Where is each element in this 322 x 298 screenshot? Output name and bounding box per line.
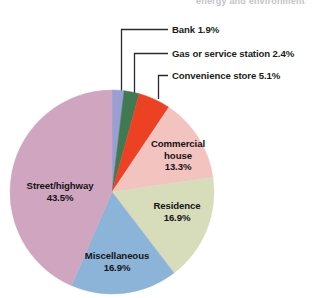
pie-chart-figure: energy and environment Bank 1.9% Gas or … <box>0 0 322 298</box>
slice-label-commercial-house-name-line2: house <box>139 150 217 162</box>
slice-label-miscellaneous-value: 16.9% <box>71 262 163 274</box>
slice-label-residence-value: 16.9% <box>141 212 213 224</box>
slice-label-residence-name: Residence <box>141 200 213 212</box>
slice-label-street-highway-value: 43.5% <box>8 192 112 204</box>
slice-label-street-highway-name: Street/highway <box>8 180 112 192</box>
slice-label-miscellaneous: Miscellaneous 16.9% <box>71 250 163 273</box>
leader-line-bank <box>122 30 169 93</box>
callout-label-gas-or-service-station: Gas or service station 2.4% <box>172 49 294 59</box>
slice-label-street-highway: Street/highway 43.5% <box>8 180 112 203</box>
callout-label-bank: Bank 1.9% <box>172 25 219 35</box>
clipped-header-text: energy and environment <box>196 0 322 6</box>
leader-lines <box>122 30 169 100</box>
leader-line-gas <box>135 54 169 94</box>
slice-label-commercial-house-value: 13.3% <box>139 161 217 173</box>
slice-label-miscellaneous-name: Miscellaneous <box>71 250 163 262</box>
callout-label-convenience-store: Convenience store 5.1% <box>172 71 280 81</box>
slice-label-commercial-house: Commercial house 13.3% <box>139 138 217 173</box>
leader-line-convenience <box>159 76 169 100</box>
slice-label-residence: Residence 16.9% <box>141 200 213 223</box>
slice-label-commercial-house-name-line1: Commercial <box>139 138 217 150</box>
